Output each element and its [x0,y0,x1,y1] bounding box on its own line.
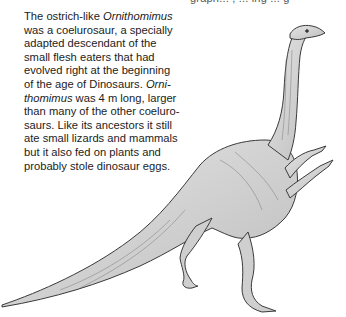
tail-and-body [2,140,298,307]
ornithomimus-illustration [0,0,346,317]
neck [268,27,314,160]
dinosaur-figure [2,25,333,312]
eye [306,30,309,33]
standing-leg [238,232,276,312]
